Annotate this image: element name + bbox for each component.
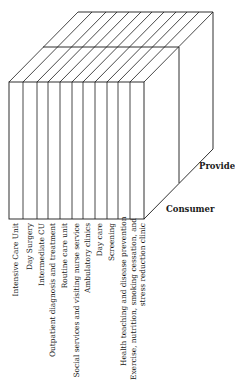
category-label: Intermediate CU xyxy=(38,223,45,293)
category-label: Day care xyxy=(96,223,103,264)
slat-lines xyxy=(9,12,213,219)
provider-axis-label: Provider xyxy=(199,161,235,171)
category-label: Health teaching and disease prevention xyxy=(120,223,127,366)
category-label: Ambulatory clinics xyxy=(84,223,91,294)
category-label: Exercise, nutrition, smoking cessation, … xyxy=(130,223,137,380)
consumer-axis-label: Consumer xyxy=(166,204,214,214)
category-label: Screening xyxy=(108,223,115,269)
category-label: Day Surgery xyxy=(26,223,33,281)
category-label: Outpatient diagnosis and treatment xyxy=(49,223,56,357)
category-label: Routine care unit xyxy=(61,223,68,297)
service-continuum-block-diagram xyxy=(0,0,235,382)
category-label: stress reduction clinic xyxy=(139,223,146,315)
category-label: Intensive Care Unit xyxy=(12,223,19,323)
category-label: Social services and visiting nurse servi… xyxy=(73,223,80,380)
